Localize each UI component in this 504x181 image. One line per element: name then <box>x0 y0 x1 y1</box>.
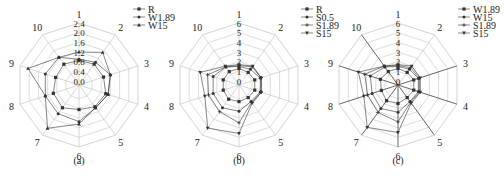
axis-label-8: 8 <box>9 101 14 112</box>
radial-tick-label: 5 <box>396 28 401 38</box>
panel-caption: (b) <box>233 155 245 167</box>
axis-label-7: 7 <box>35 137 40 148</box>
data-point-marker <box>222 78 225 81</box>
data-point-marker <box>52 92 55 95</box>
radar-spoke <box>239 35 275 85</box>
chart-legend: RS0.5S1.89S15 <box>301 4 339 39</box>
data-point-marker <box>237 132 241 135</box>
radar-spoke <box>398 85 434 135</box>
legend-entry: W15 <box>148 20 167 31</box>
axis-label-5: 5 <box>437 137 442 148</box>
data-point-marker <box>305 7 308 10</box>
data-point-marker <box>62 63 65 66</box>
data-point-marker <box>237 121 241 125</box>
axis-label-3: 3 <box>304 58 309 69</box>
data-point-marker <box>396 120 400 124</box>
data-point-marker <box>54 76 57 79</box>
data-point-marker <box>385 99 388 102</box>
data-point-marker <box>78 58 81 61</box>
radial-tick-label: 5 <box>237 28 242 38</box>
data-point-marker <box>247 96 250 99</box>
axis-label-10: 10 <box>192 22 202 33</box>
data-point-marker <box>380 89 383 92</box>
axis-label-9: 9 <box>328 58 333 69</box>
radar-spoke <box>79 85 115 135</box>
axis-label-9: 9 <box>169 58 174 69</box>
data-point-marker <box>253 78 256 81</box>
axis-label-4: 4 <box>144 101 149 112</box>
radar-spoke <box>362 35 398 85</box>
radar-spoke <box>239 85 275 135</box>
data-point-marker <box>94 61 97 64</box>
axis-label-4: 4 <box>304 101 309 112</box>
radial-tick-label: 3 <box>237 48 242 58</box>
axis-label-9: 9 <box>9 58 14 69</box>
data-point-marker <box>221 106 224 109</box>
radial-tick-label: 0.0 <box>73 77 85 87</box>
data-point-marker <box>137 7 140 10</box>
data-point-marker <box>462 7 465 10</box>
data-point-marker <box>247 71 250 74</box>
chart-legend: W1.89W15S1.89S15 <box>458 4 500 39</box>
axis-label-3: 3 <box>463 58 468 69</box>
axis-label-2: 2 <box>278 22 283 33</box>
radial-tick-label: 6 <box>237 19 242 29</box>
data-point-marker <box>249 68 252 71</box>
data-point-marker <box>238 110 241 113</box>
legend-entry: S15 <box>473 28 489 39</box>
data-point-marker <box>397 111 400 114</box>
axis-label-2: 2 <box>437 22 442 33</box>
radar-chart-a: 123456789100.00.40.81.21.62.02.4RW1.89W1… <box>9 4 175 168</box>
data-point-marker <box>138 16 141 19</box>
radial-tick-label: 3 <box>396 48 401 58</box>
legend-entry: S15 <box>316 28 332 39</box>
radar-charts-canvas: 123456789100.00.40.81.21.62.02.4RW1.89W1… <box>0 0 504 181</box>
data-point-marker <box>227 98 230 101</box>
data-point-marker <box>212 75 215 78</box>
radial-tick-label: 2.4 <box>73 19 85 29</box>
axis-label-5: 5 <box>118 137 123 148</box>
radar-chart-figure: 123456789100.00.40.81.21.62.02.4RW1.89W1… <box>0 0 504 181</box>
radial-tick-label: 2.0 <box>73 28 85 38</box>
radial-tick-label: 0 <box>237 77 242 87</box>
axis-label-8: 8 <box>169 101 174 112</box>
axis-label-10: 10 <box>32 22 42 33</box>
data-point-marker <box>363 72 367 76</box>
data-point-marker <box>396 131 400 134</box>
radar-spoke <box>398 35 434 85</box>
data-point-marker <box>207 93 211 97</box>
data-point-marker <box>77 108 80 111</box>
radial-tick-label: 1.6 <box>73 38 85 48</box>
data-point-marker <box>305 23 309 27</box>
data-point-marker <box>57 112 60 115</box>
data-point-marker <box>102 75 105 78</box>
data-point-marker <box>212 92 215 95</box>
axis-label-10: 10 <box>351 22 361 33</box>
data-point-marker <box>228 70 231 73</box>
data-point-marker <box>44 73 47 76</box>
data-point-marker <box>396 102 399 105</box>
radar-chart-b: 123456789100123456RS0.5S1.89S15(b) <box>169 4 339 168</box>
radar-chart-c: 123456789100123456W1.89W15S1.89S15(c) <box>328 4 500 168</box>
radial-tick-label: 0.4 <box>73 67 85 77</box>
data-point-marker <box>412 78 415 81</box>
data-point-marker <box>463 16 466 19</box>
data-point-marker <box>412 89 415 92</box>
axis-label-8: 8 <box>328 101 333 112</box>
axis-label-4: 4 <box>463 101 468 112</box>
data-point-marker <box>379 107 382 110</box>
data-point-marker <box>371 92 374 95</box>
axis-label-7: 7 <box>354 137 359 148</box>
data-point-marker <box>406 96 409 99</box>
radial-tick-label: 6 <box>396 19 401 29</box>
chart-legend: RW1.89W15 <box>133 4 175 31</box>
axis-label-2: 2 <box>118 22 123 33</box>
data-point-marker <box>366 93 370 97</box>
data-point-marker <box>237 100 240 103</box>
data-point-marker <box>462 23 466 27</box>
data-point-marker <box>387 70 390 73</box>
data-point-marker <box>222 89 225 92</box>
panel-caption: (c) <box>392 155 403 167</box>
data-point-marker <box>306 16 309 19</box>
data-point-marker <box>406 71 409 74</box>
